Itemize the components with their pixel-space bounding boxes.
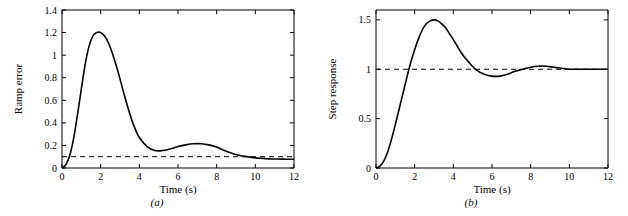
xtick-label: 12 [289,171,299,182]
ytick-label: 0.2 [45,140,58,151]
xtick-label: 2 [98,171,103,182]
plot-b-svg: 0 0.5 1 1.5 0 2 4 6 8 10 12 Time (s) Ste… [314,0,628,195]
ytick-label: 0 [52,163,57,174]
figure-container: 0 0.2 0.4 0.6 0.8 1 1.2 1.4 0 2 4 6 8 10… [0,0,628,216]
plot-a-axes [62,10,294,168]
plot-a-xticks [62,10,294,168]
xtick-label: 4 [451,171,456,182]
plot-a-yticklabels: 0 0.2 0.4 0.6 0.8 1 1.2 1.4 [45,5,58,174]
ytick-label: 0.8 [45,72,58,83]
xtick-label: 2 [412,171,417,182]
plot-a-xticklabels: 0 2 4 6 8 10 12 [60,171,300,182]
ytick-label: 1 [52,50,57,61]
plot-b-axes [376,10,608,168]
ytick-label: 0.5 [359,113,372,124]
plot-b-xticks [376,10,608,168]
chart-panel-b: 0 0.5 1 1.5 0 2 4 6 8 10 12 Time (s) Ste… [314,0,628,216]
x-axis-title: Time (s) [159,183,197,195]
panel-caption-b: (b) [314,196,628,208]
y-axis-title: Step response [326,58,338,119]
ytick-label: 1.5 [359,14,372,25]
plot-a-yticks [62,10,294,168]
plot-b-yticks [376,20,608,168]
plot-a-svg: 0 0.2 0.4 0.6 0.8 1 1.2 1.4 0 2 4 6 8 10… [0,0,314,195]
ytick-label: 0.6 [45,95,58,106]
xtick-label: 12 [603,171,613,182]
xtick-label: 10 [250,171,260,182]
ytick-label: 0 [366,163,371,174]
ytick-label: 1.4 [45,5,58,16]
panel-caption-a: (a) [0,196,314,208]
y-axis-title: Ramp error [12,63,24,114]
ytick-label: 0.4 [45,117,58,128]
xtick-label: 0 [374,171,379,182]
x-axis-title: Time (s) [473,183,511,195]
data-curve-step-response [376,20,608,168]
chart-panel-a: 0 0.2 0.4 0.6 0.8 1 1.2 1.4 0 2 4 6 8 10… [0,0,314,216]
plot-b-yticklabels: 0 0.5 1 1.5 [359,14,372,173]
xtick-label: 6 [490,171,495,182]
plot-b-xticklabels: 0 2 4 6 8 10 12 [374,171,614,182]
ytick-label: 1.2 [45,27,58,38]
xtick-label: 0 [60,171,65,182]
xtick-label: 8 [214,171,219,182]
xtick-label: 10 [564,171,574,182]
xtick-label: 8 [528,171,533,182]
xtick-label: 6 [176,171,181,182]
ytick-label: 1 [366,64,371,75]
xtick-label: 4 [137,171,142,182]
data-curve-ramp-error [62,32,294,168]
